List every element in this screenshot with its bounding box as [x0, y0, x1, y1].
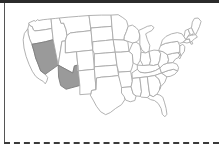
state-IA[interactable]	[113, 40, 129, 53]
map-container[interactable]	[14, 8, 214, 138]
state-FL[interactable]	[147, 94, 167, 117]
state-WY[interactable]	[65, 31, 93, 54]
dashed-rule	[4, 142, 219, 144]
united-states-map[interactable]	[14, 8, 214, 138]
top-rule	[0, 0, 219, 3]
state-NJ[interactable]	[180, 44, 185, 56]
state-NE[interactable]	[93, 40, 116, 54]
state-AR[interactable]	[119, 71, 133, 87]
left-rule	[4, 3, 5, 143]
state-CO[interactable]	[77, 50, 95, 71]
map-page	[0, 0, 219, 149]
state-MO[interactable]	[115, 51, 133, 72]
